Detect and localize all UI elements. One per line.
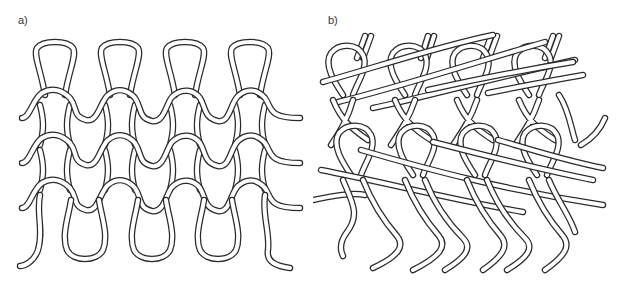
panel-a-knit-diagram — [0, 0, 313, 283]
panel-b-knit-diagram — [313, 0, 627, 283]
panel-b-yarn — [313, 35, 605, 270]
panel-a-yarn — [20, 42, 300, 268]
